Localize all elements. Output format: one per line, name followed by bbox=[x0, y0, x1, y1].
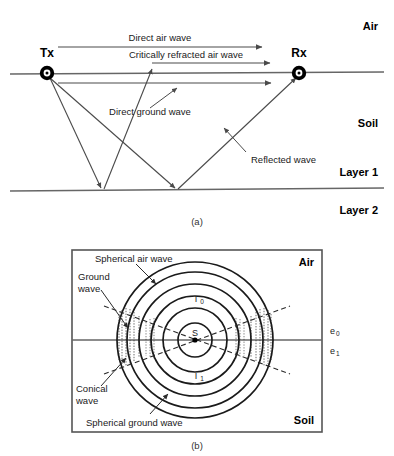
receiver-marker bbox=[292, 66, 306, 80]
intensity-air-sub: 0 bbox=[200, 298, 204, 305]
transmitter-marker bbox=[40, 66, 54, 80]
panel-a-soil-label: Soil bbox=[358, 117, 378, 129]
permittivity-soil-sub: 1 bbox=[336, 350, 340, 357]
intensity-soil-base: I bbox=[195, 371, 198, 381]
figure-root: Tx Rx Direct air wave Critically refract… bbox=[0, 0, 394, 456]
ground-wave-label-line1: Ground bbox=[78, 271, 110, 282]
receiver-label: Rx bbox=[291, 46, 307, 60]
intensity-soil-label: I 1 bbox=[195, 371, 204, 382]
air-soil-interface-line bbox=[10, 72, 384, 74]
panel-b-caption: (b) bbox=[191, 440, 203, 451]
permittivity-air-base: e bbox=[330, 326, 335, 336]
panel-b-soil-label: Soil bbox=[294, 414, 314, 426]
source-point bbox=[192, 337, 197, 342]
panel-a-air-label: Air bbox=[363, 20, 379, 32]
reflected-wave-label: Reflected wave bbox=[251, 154, 316, 165]
critically-refracted-air-wave-label: Critically refracted air wave bbox=[129, 49, 243, 60]
panel-a-caption-wrap: (a) bbox=[0, 212, 394, 236]
ray-reflection-1-to-interface bbox=[104, 69, 152, 189]
intensity-soil-sub: 1 bbox=[200, 375, 204, 382]
panel-b: Spherical air wave Ground wave Conical w… bbox=[0, 236, 394, 456]
panel-b-air-label: Air bbox=[299, 256, 315, 268]
conical-wave-label-line2: wave bbox=[75, 395, 98, 406]
intensity-air-base: I bbox=[195, 294, 198, 304]
direct-air-wave-label: Direct air wave bbox=[129, 32, 192, 43]
direct-ground-wave-leader bbox=[150, 88, 177, 108]
ray-tx-to-reflection-1 bbox=[50, 78, 101, 188]
spherical-ground-wave-label: Spherical ground wave bbox=[86, 417, 183, 428]
permittivity-soil-base: e bbox=[330, 346, 335, 356]
layer1-layer2-interface-line bbox=[10, 188, 384, 191]
ground-wave-label-line2: wave bbox=[77, 283, 100, 294]
permittivity-soil-label: e 1 bbox=[330, 346, 340, 357]
panel-a-layer1-label: Layer 1 bbox=[339, 166, 378, 178]
panel-a: Tx Rx Direct air wave Critically refract… bbox=[0, 0, 394, 228]
spherical-air-wave-label: Spherical air wave bbox=[95, 253, 173, 264]
ray-tx-to-reflection-2 bbox=[50, 78, 175, 188]
direct-ground-wave-label: Direct ground wave bbox=[109, 106, 191, 117]
transmitter-label: Tx bbox=[40, 46, 54, 60]
panel-a-caption: (a) bbox=[191, 216, 203, 227]
conical-wave-label-line1: Conical bbox=[76, 383, 108, 394]
source-label: S bbox=[192, 328, 198, 338]
permittivity-air-sub: 0 bbox=[336, 330, 340, 337]
reflected-wave-leader bbox=[224, 128, 246, 152]
conical-wave-leader bbox=[101, 358, 126, 386]
ray-reflection-2-to-rx bbox=[178, 78, 296, 189]
permittivity-air-label: e 0 bbox=[330, 326, 340, 337]
